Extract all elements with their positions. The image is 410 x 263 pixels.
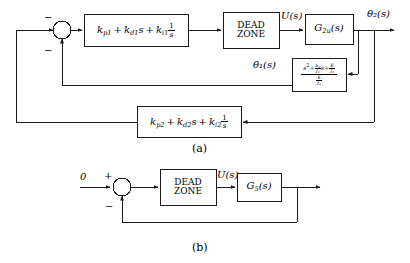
caption-a: (a) [192,142,207,155]
input-label-b: 0 [80,172,86,182]
summing-junction-a-circle [53,21,71,39]
signal-label-theta1: θ₁(s) [253,60,276,70]
summing-junction-b-circle [113,178,131,196]
block-theta1-tf-label: s2+b2J2s+KJ2 KJ2 [292,58,346,91]
theta1-tf-numerator: s2+b2J2s+KJ2 [301,63,337,73]
pid-inner-ki: ki1 [156,24,168,35]
pid-inner-kp: kp1 [97,24,111,35]
summing-junction-a-sign-top: − [44,13,52,23]
summing-junction-a-sign-bottom: − [44,46,52,56]
theta1-tf-denominator: KJ2 [301,74,337,86]
signal-label-u-a: U(s) [281,11,302,21]
pid-outer-one-over-s: 1s [221,114,228,130]
block-pid-inner-label: kp1+kd1s+ki11s [84,14,188,46]
signal-label-u-b: U(s) [217,170,238,180]
caption-b: (b) [192,241,208,254]
signal-label-theta2: θ₂(s) [367,9,390,19]
pid-outer-ki: ki2 [209,116,221,127]
block-dead-zone-b-label: DEAD ZONE [160,169,216,205]
block-dead-zone-a-label: DEAD ZONE [223,12,279,48]
figure-root: − − kp1+kd1s+ki11s DEAD ZONE G2u(s) s2+b… [0,0,410,263]
summing-junction-b-sign-bottom: − [105,202,113,212]
summing-junction-b-sign-top: + [104,171,112,181]
pid-outer-kd: kd2 [177,116,191,127]
pid-outer-kp: kp2 [150,116,164,127]
block-pid-outer-label: kp2+kd2s+ki21s [137,106,241,137]
dead-zone-b-line2: ZONE [174,186,202,196]
block-plant-b-label: G5(s) [237,173,281,201]
pid-inner-kd: kd1 [124,24,138,35]
block-plant-a-label: G2u(s) [305,14,353,44]
dead-zone-a-line2: ZONE [237,29,265,39]
pid-inner-one-over-s: 1s [168,22,175,38]
